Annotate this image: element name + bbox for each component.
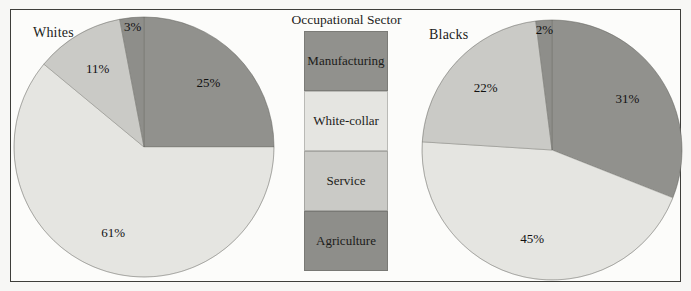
legend-item-label: White-collar — [313, 113, 379, 129]
blacks-label-manufacturing: 31% — [615, 91, 639, 106]
legend-item-label: Agriculture — [316, 233, 376, 249]
whites-label-manufacturing: 25% — [196, 75, 220, 90]
legend-item-white-collar: White-collar — [304, 91, 388, 152]
whites-label-agriculture: 3% — [124, 19, 142, 34]
whites-label-white-collar: 61% — [101, 225, 125, 240]
blacks-pie-chart: 31%45%22%2% — [422, 20, 682, 280]
legend-item-label: Service — [327, 173, 366, 189]
legend-item-manufacturing: Manufacturing — [304, 31, 388, 92]
figure-frame: Whites 25%61%11%3% Occupational Sector M… — [10, 9, 681, 282]
blacks-label-agriculture: 2% — [536, 22, 554, 37]
legend-title: Occupational Sector — [289, 12, 404, 28]
legend-item-agriculture: Agriculture — [304, 211, 388, 272]
legend: Occupational Sector ManufacturingWhite-c… — [289, 12, 404, 33]
whites-label-service: 11% — [86, 61, 110, 76]
legend-item-service: Service — [304, 151, 388, 212]
legend-item-label: Manufacturing — [307, 53, 384, 69]
blacks-label-service: 22% — [474, 80, 498, 95]
blacks-pie-svg: 31%45%22%2% — [422, 20, 682, 280]
whites-pie-svg: 25%61%11%3% — [14, 17, 274, 277]
legend-items: ManufacturingWhite-collarServiceAgricult… — [304, 31, 388, 271]
blacks-label-white-collar: 45% — [520, 231, 544, 246]
whites-pie-chart: 25%61%11%3% — [14, 17, 274, 277]
figure: Whites 25%61%11%3% Occupational Sector M… — [0, 0, 691, 291]
